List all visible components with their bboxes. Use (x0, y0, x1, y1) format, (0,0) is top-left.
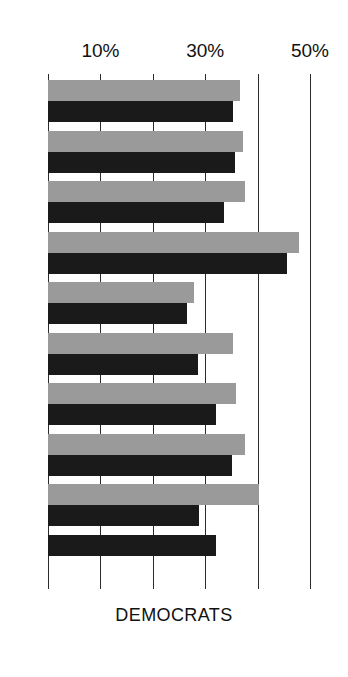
bar-black (48, 535, 216, 556)
bar-black (48, 455, 232, 476)
bar-gray (48, 383, 236, 404)
bar-black (48, 354, 198, 375)
bar-black (48, 202, 224, 223)
bar-black (48, 253, 287, 274)
bars-layer (48, 74, 310, 589)
bar-group (48, 535, 310, 556)
bar-gray (48, 80, 240, 101)
bar-group (48, 80, 310, 122)
bar-group (48, 282, 310, 324)
bar-black (48, 404, 216, 425)
bar-black (48, 101, 233, 122)
bar-group (48, 181, 310, 223)
bar-group (48, 484, 310, 526)
bar-gray (48, 181, 245, 202)
x-axis-tick-label: 30% (186, 40, 224, 62)
bar-gray (48, 484, 259, 505)
caption-label: DEMOCRATS (115, 605, 232, 626)
x-axis-tick-label: 10% (81, 40, 119, 62)
bar-group (48, 131, 310, 173)
plot-area (48, 74, 310, 589)
bar-group (48, 232, 310, 274)
x-axis-tick-label: 50% (291, 40, 329, 62)
gridline (310, 74, 311, 589)
bar-group (48, 383, 310, 425)
bar-gray (48, 333, 233, 354)
bar-gray (48, 282, 194, 303)
chart-caption: DEMOCRATS (0, 605, 348, 626)
bar-gray (48, 434, 245, 455)
x-axis-tick-labels: 10%30%50% (0, 0, 348, 74)
bar-group (48, 434, 310, 476)
bar-gray (48, 232, 299, 253)
bar-black (48, 303, 187, 324)
bar-gray (48, 131, 243, 152)
bar-black (48, 152, 235, 173)
bar-black (48, 505, 199, 526)
bar-chart: 10%30%50% DEMOCRATS (0, 0, 348, 677)
bar-group (48, 333, 310, 375)
